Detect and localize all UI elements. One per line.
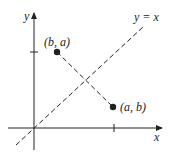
point-b-a-label: (b, a) (44, 35, 70, 49)
line-label: y = x (133, 10, 159, 24)
reflection-diagram: y x y = x (b, a) (a, b) (0, 0, 173, 157)
point-b-a (54, 49, 60, 55)
line-y-equals-x (16, 27, 143, 145)
y-axis-label: y (23, 9, 30, 23)
diagram-svg: y x y = x (b, a) (a, b) (0, 0, 173, 157)
x-axis-label: x (153, 130, 160, 144)
point-a-b-label: (a, b) (120, 100, 146, 114)
point-a-b (110, 104, 116, 110)
